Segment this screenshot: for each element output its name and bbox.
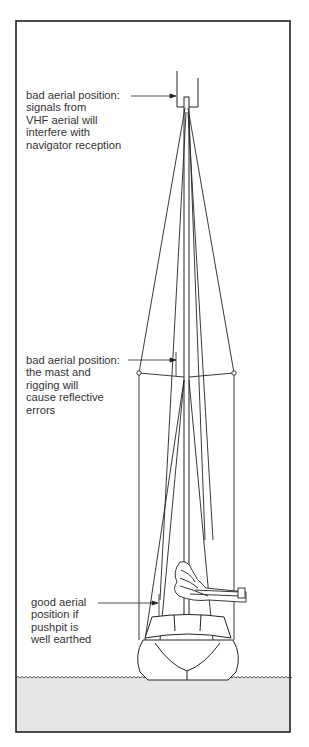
label-middle-bad-position: bad aerial position: the mast and riggin… [26, 354, 120, 416]
diagram: bad aerial position: signals from VHF ae… [0, 0, 309, 747]
water [16, 678, 290, 732]
spreader-tip-right [232, 371, 236, 375]
label-top-bad-position: bad aerial position: signals from VHF ae… [26, 89, 121, 151]
spreader-tip-left [137, 371, 141, 375]
deck [145, 615, 231, 639]
label-bottom-good-position: good aerial position if pushpit is well … [31, 596, 91, 646]
hull [138, 640, 239, 680]
mast [184, 97, 189, 617]
boat [138, 615, 239, 681]
furled-sail-boom [174, 562, 246, 602]
